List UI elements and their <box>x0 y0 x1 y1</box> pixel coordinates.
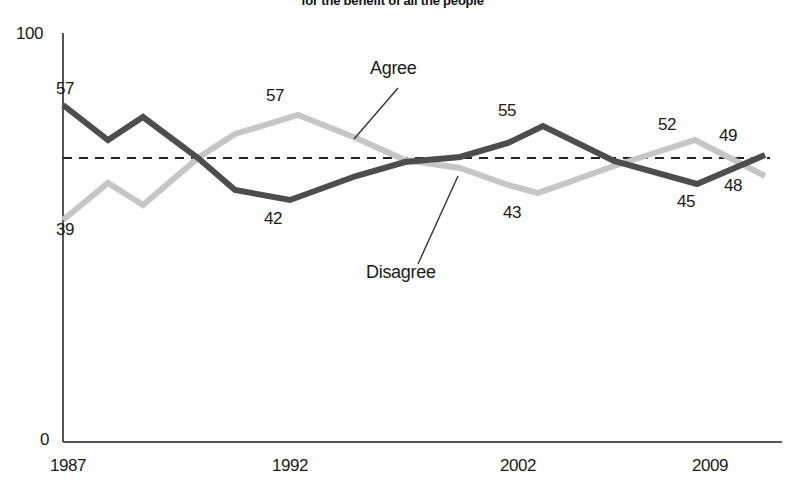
series-annotation-agree: Agree <box>370 58 417 79</box>
y-axis-min-label: 0 <box>40 430 49 450</box>
x-tick-1987: 1987 <box>28 456 108 476</box>
leader-line-agree <box>354 88 398 139</box>
data-label-disagree-1987: 57 <box>45 79 85 99</box>
data-label-agree-end: 49 <box>708 126 748 146</box>
series-annotation-disagree: Disagree <box>366 262 436 283</box>
data-label-agree-low-2005: 43 <box>492 203 532 223</box>
data-label-disagree-low-1994: 42 <box>253 209 293 229</box>
data-label-disagree-end: 48 <box>713 176 753 196</box>
line-chart: for the benefit of all the people 100 0 … <box>0 0 785 502</box>
data-label-agree-peak-1994: 57 <box>255 86 295 106</box>
x-tick-1992: 1992 <box>250 456 330 476</box>
x-tick-2002: 2002 <box>478 456 558 476</box>
data-label-agree-peak-2009: 52 <box>647 115 687 135</box>
x-tick-2009: 2009 <box>670 456 750 476</box>
data-label-disagree-low-2007: 45 <box>666 192 706 212</box>
data-label-agree-1987: 39 <box>45 220 85 240</box>
data-label-disagree-peak-2003: 55 <box>487 101 527 121</box>
y-axis-max-label: 100 <box>16 24 43 44</box>
leader-line-disagree <box>418 176 458 264</box>
